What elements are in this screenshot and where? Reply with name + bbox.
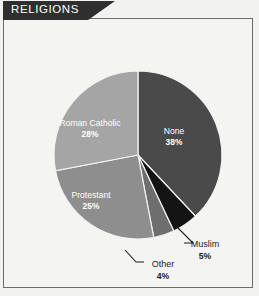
slice-label-roman-catholic-text: Roman Catholic [59, 118, 120, 128]
slice-label-roman-catholic-value: 28% [46, 129, 134, 140]
pie-chart-graphic: None 38% Roman Catholic 28% Protestant 2… [0, 0, 259, 296]
leader-line-other [125, 250, 144, 262]
slice-label-muslim-text: Muslim [191, 239, 220, 249]
slice-label-roman-catholic: Roman Catholic 28% [46, 118, 134, 140]
slice-label-none-text: None [164, 126, 185, 136]
pie-slice-group [54, 71, 222, 239]
slice-label-none: None 38% [152, 126, 196, 148]
slice-label-other: Other 4% [144, 258, 182, 282]
slice-label-muslim-value: 5% [183, 250, 227, 262]
slice-label-other-text: Other [152, 259, 175, 269]
slice-label-other-value: 4% [144, 270, 182, 282]
religions-pie-chart-figure: RELIGIONS None 38% Roman Catholic 28% Pr… [0, 0, 259, 296]
slice-label-protestant-text: Protestant [71, 190, 110, 200]
slice-label-none-value: 38% [152, 137, 196, 148]
slice-label-protestant: Protestant 25% [57, 190, 125, 212]
slice-label-muslim: Muslim 5% [183, 238, 227, 262]
slice-label-protestant-value: 25% [57, 201, 125, 212]
